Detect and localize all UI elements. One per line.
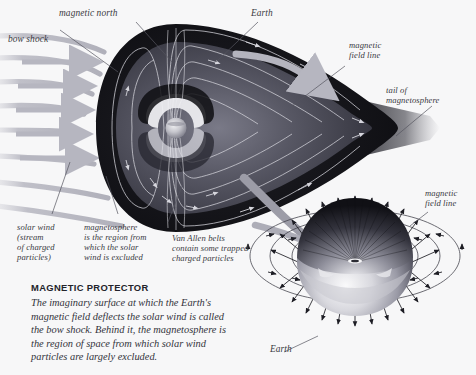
label-magnetic-field-line-top: magnetic field line <box>349 40 381 60</box>
label-magnetosphere: magnetosphere is the region from which t… <box>84 222 147 263</box>
label-tail-of-magnetosphere: tail of magnetosphere <box>386 85 440 105</box>
label-bow-shock: bow shock <box>8 34 48 45</box>
label-van-allen-belts: Van Allen belts contain some trapped cha… <box>172 233 248 263</box>
label-magnetic-north: magnetic north <box>59 8 117 19</box>
label-earth-inset: Earth <box>270 344 292 355</box>
caption-body: The imaginary surface at which the Earth… <box>31 296 236 364</box>
diagram-stage: magnetic north bow shock Earth magnetic … <box>0 0 476 375</box>
caption-title: MAGNETIC PROTECTOR <box>31 282 236 293</box>
caption-block: MAGNETIC PROTECTOR The imaginary surface… <box>31 282 236 364</box>
label-magnetic-field-line-inset: magnetic field line <box>425 188 457 208</box>
label-solar-wind: solar wind (stream of charged particles) <box>17 222 55 263</box>
label-earth-main: Earth <box>251 8 273 19</box>
